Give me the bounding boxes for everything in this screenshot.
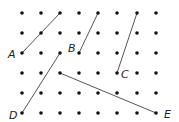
grid-dot xyxy=(154,11,158,15)
grid-dot xyxy=(154,31,158,35)
grid-dot xyxy=(39,11,43,15)
grid-dot xyxy=(58,111,62,115)
grid-dot xyxy=(96,71,100,75)
grid-dot xyxy=(96,91,100,95)
segment-d xyxy=(22,53,60,113)
grid-dot xyxy=(58,11,62,15)
point-label-a: A xyxy=(7,48,16,61)
grid-dot xyxy=(96,111,100,115)
segment-e xyxy=(60,73,156,113)
grid-dot xyxy=(96,31,100,35)
grid-dot xyxy=(58,51,62,55)
grid-dot xyxy=(77,51,81,55)
grid-dot xyxy=(154,111,158,115)
grid-dot xyxy=(39,91,43,95)
grid-dot xyxy=(39,71,43,75)
grid-dot xyxy=(154,91,158,95)
grid-dot xyxy=(58,31,62,35)
grid-dot xyxy=(135,51,139,55)
grid-dot xyxy=(135,111,139,115)
grid-dot xyxy=(39,111,43,115)
grid-dot xyxy=(115,11,119,15)
grid-dot xyxy=(77,71,81,75)
grid-dot xyxy=(154,51,158,55)
grid-dot xyxy=(58,91,62,95)
grid-dot xyxy=(115,51,119,55)
grid-dot xyxy=(77,31,81,35)
grid-dot xyxy=(96,11,100,15)
point-label-d: D xyxy=(9,109,17,122)
grid-dot xyxy=(77,91,81,95)
grid-dot xyxy=(58,71,62,75)
grid-dot xyxy=(39,51,43,55)
grid-dot xyxy=(115,91,119,95)
grid-dot xyxy=(135,91,139,95)
grid-dot xyxy=(20,11,24,15)
grid-dot xyxy=(77,111,81,115)
grid-dot xyxy=(135,31,139,35)
grid-dot xyxy=(20,111,24,115)
grid-dot xyxy=(135,71,139,75)
grid-dot xyxy=(20,31,24,35)
grid-dot xyxy=(20,51,24,55)
point-label-b: B xyxy=(68,42,76,55)
segment-b xyxy=(79,13,98,53)
grid-dot xyxy=(115,111,119,115)
grid-dot xyxy=(135,11,139,15)
grid-dot xyxy=(115,31,119,35)
grid-dot xyxy=(115,71,119,75)
grid-dot xyxy=(96,51,100,55)
segment-c xyxy=(117,13,137,73)
point-label-e: E xyxy=(164,108,171,121)
grid-dot xyxy=(20,91,24,95)
grid-dot xyxy=(77,11,81,15)
grid-dot xyxy=(39,31,43,35)
grid-dot xyxy=(154,71,158,75)
dot-grid-diagram: ABCDE xyxy=(0,0,179,122)
point-label-c: C xyxy=(121,68,129,81)
grid-dot xyxy=(20,71,24,75)
